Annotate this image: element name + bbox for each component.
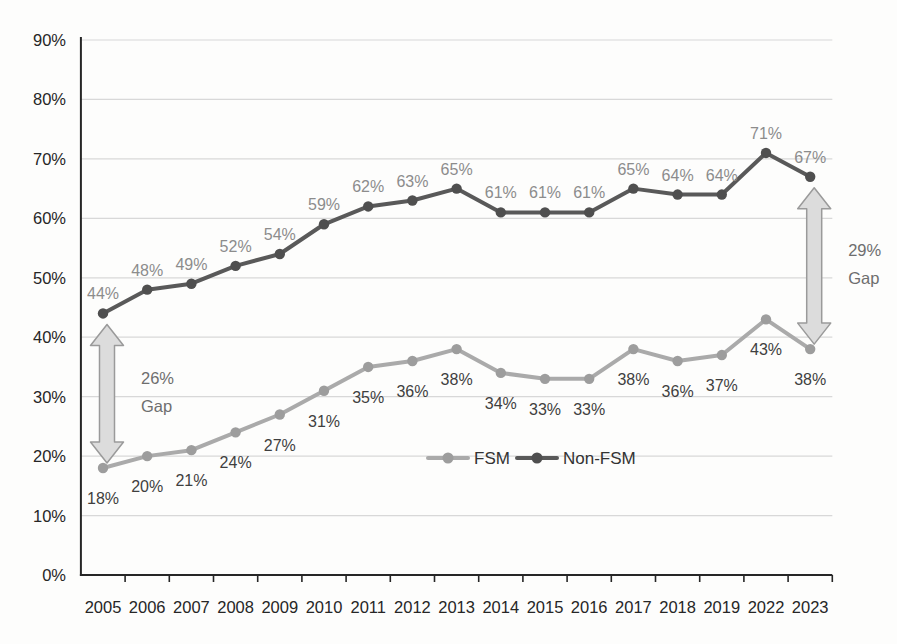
x-tick-label: 2007 xyxy=(173,598,210,616)
data-label-non-fsm: 61% xyxy=(529,184,561,201)
x-tick-label: 2009 xyxy=(261,598,298,616)
data-label-fsm: 33% xyxy=(529,401,561,418)
data-point-non-fsm xyxy=(230,261,240,271)
x-tick-label: 2016 xyxy=(571,598,608,616)
gap-arrow-2023 xyxy=(798,188,831,344)
data-label-fsm: 38% xyxy=(441,371,473,388)
gap-label-2005: Gap xyxy=(141,397,172,415)
data-point-fsm xyxy=(142,451,152,461)
data-label-non-fsm: 62% xyxy=(352,178,384,195)
data-point-fsm xyxy=(628,344,638,354)
fsm-vs-nonfsm-line-chart: 0%10%20%30%40%50%60%70%80%90%20052006200… xyxy=(0,0,897,644)
x-tick-label: 2011 xyxy=(350,598,385,616)
data-point-fsm xyxy=(407,356,417,366)
gap-label-2005: 26% xyxy=(141,369,174,387)
data-point-non-fsm xyxy=(451,183,461,193)
data-label-non-fsm: 48% xyxy=(131,262,163,279)
x-tick-label: 2015 xyxy=(527,598,564,616)
data-point-non-fsm xyxy=(496,207,506,217)
data-label-fsm: 36% xyxy=(396,383,428,400)
data-label-fsm: 31% xyxy=(308,413,340,430)
data-label-non-fsm: 54% xyxy=(264,226,296,243)
y-tick-label: 20% xyxy=(33,447,66,465)
x-tick-label: 2006 xyxy=(129,598,166,616)
x-tick-label: 2019 xyxy=(703,598,740,616)
data-label-fsm: 20% xyxy=(131,478,163,495)
data-point-non-fsm xyxy=(628,183,638,193)
data-point-non-fsm xyxy=(275,249,285,259)
data-label-fsm: 18% xyxy=(87,490,119,507)
y-tick-label: 30% xyxy=(33,388,66,406)
x-tick-label: 2013 xyxy=(438,598,475,616)
data-label-non-fsm: 61% xyxy=(485,184,517,201)
data-label-fsm: 38% xyxy=(794,371,826,388)
y-tick-label: 80% xyxy=(33,90,66,108)
y-tick-label: 60% xyxy=(33,209,66,227)
legend-marker-non-fsm xyxy=(532,453,543,464)
y-tick-label: 40% xyxy=(33,328,66,346)
data-label-fsm: 27% xyxy=(264,437,296,454)
data-point-fsm xyxy=(672,356,682,366)
x-tick-label: 2012 xyxy=(394,598,431,616)
y-tick-label: 10% xyxy=(33,507,66,525)
data-label-non-fsm: 61% xyxy=(573,184,605,201)
data-point-fsm xyxy=(275,409,285,419)
data-point-non-fsm xyxy=(672,189,682,199)
data-point-non-fsm xyxy=(363,201,373,211)
data-point-fsm xyxy=(805,344,815,354)
data-label-fsm: 37% xyxy=(706,377,738,394)
gap-label-2023: Gap xyxy=(848,269,879,287)
data-point-non-fsm xyxy=(805,172,815,182)
data-point-fsm xyxy=(186,445,196,455)
x-tick-label: 2010 xyxy=(306,598,343,616)
data-point-non-fsm xyxy=(186,279,196,289)
x-tick-label: 2022 xyxy=(748,598,785,616)
data-point-non-fsm xyxy=(98,308,108,318)
data-point-non-fsm xyxy=(540,207,550,217)
data-label-non-fsm: 49% xyxy=(175,256,207,273)
data-label-fsm: 33% xyxy=(573,401,605,418)
data-point-fsm xyxy=(496,368,506,378)
chart-page: 0%10%20%30%40%50%60%70%80%90%20052006200… xyxy=(0,0,897,644)
legend-marker-fsm xyxy=(443,453,454,464)
x-tick-label: 2023 xyxy=(792,598,829,616)
data-point-fsm xyxy=(761,314,771,324)
data-label-non-fsm: 44% xyxy=(87,285,119,302)
data-label-non-fsm: 67% xyxy=(794,149,826,166)
data-label-fsm: 36% xyxy=(662,383,694,400)
data-label-non-fsm: 71% xyxy=(750,125,782,142)
data-label-fsm: 24% xyxy=(220,454,252,471)
y-tick-label: 0% xyxy=(42,566,66,584)
legend-label-fsm: FSM xyxy=(474,449,510,468)
data-point-fsm xyxy=(98,463,108,473)
data-point-fsm xyxy=(584,374,594,384)
data-label-non-fsm: 63% xyxy=(396,173,428,190)
data-point-non-fsm xyxy=(319,219,329,229)
data-label-non-fsm: 59% xyxy=(308,196,340,213)
data-point-fsm xyxy=(717,350,727,360)
data-label-fsm: 21% xyxy=(175,472,207,489)
y-tick-label: 90% xyxy=(33,31,66,49)
series-line-fsm xyxy=(103,319,810,468)
y-tick-label: 50% xyxy=(33,269,66,287)
data-label-non-fsm: 65% xyxy=(617,161,649,178)
data-label-non-fsm: 64% xyxy=(706,167,738,184)
data-label-non-fsm: 52% xyxy=(220,238,252,255)
x-tick-label: 2018 xyxy=(659,598,696,616)
gap-arrow-2005 xyxy=(91,324,124,463)
data-point-non-fsm xyxy=(142,284,152,294)
data-label-fsm: 35% xyxy=(352,389,384,406)
data-label-non-fsm: 64% xyxy=(662,167,694,184)
legend-label-non-fsm: Non-FSM xyxy=(563,449,636,468)
data-point-non-fsm xyxy=(584,207,594,217)
x-tick-label: 2017 xyxy=(615,598,652,616)
data-point-fsm xyxy=(451,344,461,354)
gap-label-2023: 29% xyxy=(848,241,881,259)
x-tick-label: 2014 xyxy=(482,598,519,616)
data-point-fsm xyxy=(363,362,373,372)
data-label-fsm: 38% xyxy=(617,371,649,388)
data-point-fsm xyxy=(540,374,550,384)
data-point-non-fsm xyxy=(761,148,771,158)
x-tick-label: 2008 xyxy=(217,598,254,616)
data-label-fsm: 43% xyxy=(750,341,782,358)
